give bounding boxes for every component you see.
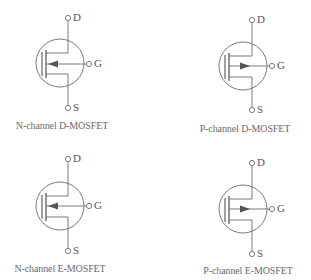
source-terminal [65, 105, 70, 110]
drain-label: D [257, 14, 265, 25]
source-label: S [257, 104, 263, 115]
source-lead [46, 74, 68, 105]
arrow-outward-icon [240, 206, 250, 213]
caption-p-channel-d-mosfet: P-channel D-MOSFET [200, 123, 291, 134]
source-label: S [73, 102, 79, 113]
gate-terminal [269, 63, 274, 68]
gate-terminal [86, 61, 91, 66]
source-lead [46, 217, 68, 248]
source-lead [229, 77, 252, 107]
drain-terminal [249, 17, 254, 22]
caption-n-channel-d-mosfet: N-channel D-MOSFET [16, 120, 108, 131]
gate-label: G [94, 58, 102, 69]
symbol-n-channel-d-mosfet [36, 15, 92, 110]
symbol-p-channel-d-mosfet [219, 17, 275, 112]
caption-n-channel-e-mosfet: N-channel E-MOSFET [14, 263, 105, 274]
drain-lead [46, 162, 68, 196]
gate-label: G [277, 203, 285, 214]
source-lead [229, 220, 252, 251]
device-envelope-circle [36, 39, 84, 87]
drain-terminal [249, 160, 254, 165]
gate-terminal [86, 203, 91, 208]
symbol-p-channel-e-mosfet [219, 160, 275, 256]
source-label: S [73, 245, 79, 256]
source-terminal [65, 248, 70, 253]
drain-terminal [65, 156, 70, 161]
drain-label: D [73, 12, 81, 23]
arrow-inward-icon [48, 61, 58, 68]
source-label: S [257, 248, 263, 259]
drain-label: D [257, 157, 265, 168]
drain-lead [46, 21, 68, 53]
drain-lead [229, 23, 252, 56]
arrow-inward-icon [48, 203, 58, 210]
drain-label: D [73, 153, 81, 164]
mosfet-symbols-diagram [0, 0, 311, 280]
gate-terminal [269, 206, 274, 211]
drain-terminal [65, 15, 70, 20]
source-terminal [249, 107, 254, 112]
gate-label: G [277, 60, 285, 71]
symbol-n-channel-e-mosfet [36, 156, 92, 253]
arrow-outward-icon [240, 63, 250, 70]
source-terminal [249, 251, 254, 256]
gate-label: G [94, 200, 102, 211]
drain-lead [229, 166, 252, 199]
caption-p-channel-e-mosfet: P-channel E-MOSFET [203, 265, 293, 276]
